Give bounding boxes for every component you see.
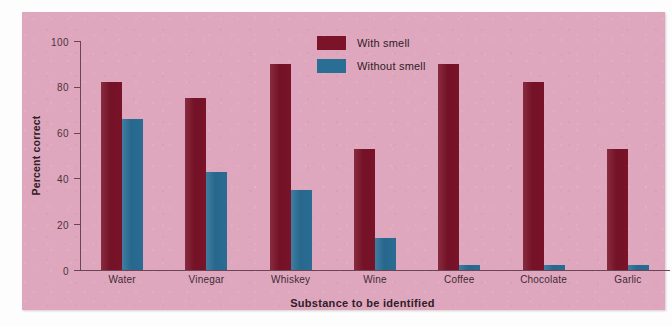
x-axis-category-label: Whiskey: [249, 274, 333, 285]
y-axis-tick: 100: [74, 41, 80, 42]
bar: [101, 82, 122, 270]
bar: [354, 149, 375, 270]
legend: With smellWithout smell: [317, 31, 426, 77]
bar: [206, 172, 227, 270]
y-axis-tick-label: 40: [57, 173, 69, 184]
x-axis-category-label: Chocolate: [502, 274, 586, 285]
legend-swatch: [317, 59, 346, 73]
x-axis-category-label: Vinegar: [164, 274, 248, 285]
x-axis-category-label: Garlic: [586, 274, 670, 285]
bar: [122, 119, 143, 270]
bar: [544, 265, 565, 270]
y-axis-tick: 60: [74, 133, 80, 134]
y-axis-tick-label: 0: [63, 265, 69, 276]
x-axis-title: Substance to be identified: [80, 297, 645, 309]
bar: [375, 238, 396, 270]
y-axis-tick: 80: [74, 87, 80, 88]
x-axis-category-label: Wine: [333, 274, 417, 285]
y-axis-tick: 40: [74, 178, 80, 179]
bar-group: Vinegar: [185, 41, 227, 270]
legend-item: Without smell: [317, 54, 426, 77]
figure: Percent correct Substance to be identifi…: [0, 0, 672, 327]
legend-swatch: [317, 36, 346, 50]
bar: [628, 265, 649, 270]
legend-label: With smell: [357, 37, 410, 49]
bar-group: Coffee: [438, 41, 480, 270]
bar: [607, 149, 628, 270]
bar-group: Chocolate: [523, 41, 565, 270]
chart-panel: Percent correct Substance to be identifi…: [22, 12, 665, 310]
y-axis-tick: 0: [74, 270, 80, 271]
legend-label: Without smell: [357, 60, 426, 72]
y-axis-tick-label: 20: [57, 219, 69, 230]
bar-group: Water: [101, 41, 143, 270]
bar: [185, 98, 206, 270]
legend-item: With smell: [317, 31, 426, 54]
y-axis-tick-label: 80: [57, 82, 69, 93]
bar: [438, 64, 459, 270]
bar-group: Garlic: [607, 41, 649, 270]
bar-group: Whiskey: [270, 41, 312, 270]
bar: [291, 190, 312, 270]
y-axis-tick-label: 60: [57, 128, 69, 139]
y-axis-tick: 20: [74, 224, 80, 225]
x-axis-line: [80, 270, 670, 271]
bar: [270, 64, 291, 270]
bar: [459, 265, 480, 270]
bar: [523, 82, 544, 270]
y-axis-line: [80, 41, 81, 270]
x-axis-category-label: Water: [80, 274, 164, 285]
x-axis-category-label: Coffee: [417, 274, 501, 285]
y-axis-tick-label: 100: [51, 36, 69, 47]
y-axis-title: Percent correct: [30, 41, 46, 270]
